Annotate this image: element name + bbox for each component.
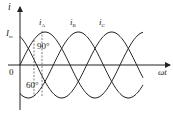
label-ic: iC bbox=[99, 17, 106, 28]
angle-60-label: 60° bbox=[26, 80, 39, 90]
origin-label: 0 bbox=[9, 67, 14, 77]
x-axis-label: ωt bbox=[158, 67, 167, 77]
y-axis-label: i bbox=[8, 1, 11, 12]
label-ib: iB bbox=[70, 17, 77, 28]
amplitude-label: Im bbox=[5, 28, 13, 39]
angle-90-label: 90° bbox=[37, 41, 50, 51]
label-ia: iA bbox=[39, 17, 46, 28]
waveform-diagram: i ωt 0 Im iA iB iC 90° 60° bbox=[0, 0, 173, 128]
